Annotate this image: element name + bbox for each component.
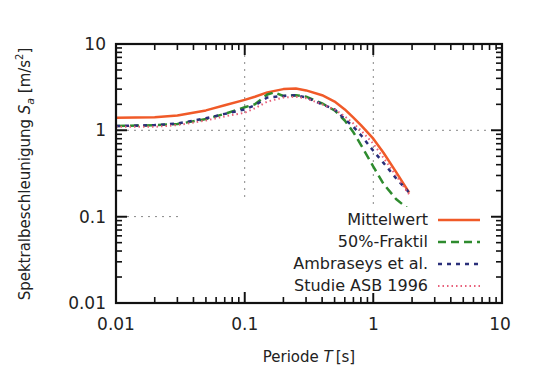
legend-label-ambraseys: Ambraseys et al. bbox=[293, 254, 428, 273]
x-tick-label: 10 bbox=[489, 314, 511, 334]
response-spectrum-chart: 10 1 0.1 0.01 0.01 0.1 1 10 Periode T[s]… bbox=[0, 0, 538, 385]
series-line-studie-asb-1996 bbox=[116, 97, 409, 195]
x-tick-label: 0.01 bbox=[97, 314, 135, 334]
legend: Mittelwert 50%-Fraktil Ambraseys et al. … bbox=[290, 207, 490, 295]
y-tick-label: 10 bbox=[84, 34, 106, 54]
series-line-ambraseys-et-al- bbox=[116, 95, 409, 192]
y-tick-label: 1 bbox=[95, 120, 106, 140]
legend-label-mittelwert: Mittelwert bbox=[347, 210, 428, 229]
y-tick-label: 0.1 bbox=[79, 207, 106, 227]
legend-label-asb: Studie ASB 1996 bbox=[294, 276, 428, 295]
legend-label-fraktil: 50%-Fraktil bbox=[338, 232, 428, 251]
x-axis-title: Periode T[s] bbox=[263, 348, 355, 366]
x-tick-label: 0.1 bbox=[231, 314, 258, 334]
x-tick-label: 1 bbox=[368, 314, 379, 334]
grid bbox=[120, 48, 498, 230]
x-tick-labels: 0.01 0.1 1 10 bbox=[97, 314, 511, 334]
y-tick-label: 0.01 bbox=[68, 293, 106, 313]
series-line-50-fraktil bbox=[116, 92, 409, 209]
y-tick-labels: 10 1 0.1 0.01 bbox=[68, 34, 106, 313]
y-axis-title: Spektralbeschleunigung Sa [m/s2] bbox=[14, 48, 37, 301]
series-layer bbox=[116, 89, 409, 210]
